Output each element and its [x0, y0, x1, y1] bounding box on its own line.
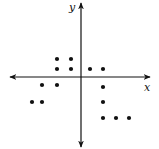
scatter-diagram: y x	[0, 0, 159, 149]
data-point	[69, 67, 73, 71]
data-point	[69, 57, 73, 61]
data-point	[55, 83, 59, 87]
axes	[10, 3, 150, 147]
y-axis-label: y	[68, 1, 76, 14]
data-point	[101, 116, 105, 120]
data-point	[88, 67, 92, 71]
x-axis-label: x	[144, 81, 151, 94]
data-point	[101, 100, 105, 104]
data-point	[55, 67, 59, 71]
data-point	[40, 83, 44, 87]
data-point	[127, 116, 131, 120]
data-point	[114, 116, 118, 120]
data-point	[101, 67, 105, 71]
data-point	[55, 57, 59, 61]
data-point	[40, 100, 44, 104]
data-point	[101, 85, 105, 89]
data-point	[30, 100, 34, 104]
